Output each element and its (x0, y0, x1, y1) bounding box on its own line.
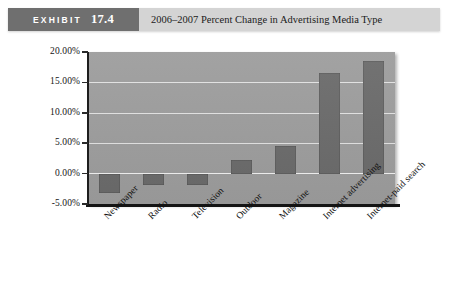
bar (363, 61, 384, 174)
y-tick-mark (82, 112, 88, 114)
y-tick-mark (82, 82, 88, 84)
y-tick-label: 0.00% (6, 168, 80, 178)
exhibit-header: EXHIBIT 17.4 2006–2007 Percent Change in… (8, 8, 440, 31)
gridline (88, 113, 395, 114)
y-axis-spine (87, 52, 89, 205)
y-tick-mark (82, 142, 88, 144)
x-axis-spine (86, 204, 400, 207)
gridline (88, 82, 395, 83)
y-tick-mark (82, 173, 88, 175)
bar (319, 73, 340, 173)
bar (143, 174, 164, 185)
y-tick-mark (82, 203, 88, 205)
y-tick-label: 10.00% (6, 107, 80, 117)
exhibit-keyword-label: EXHIBIT (33, 15, 82, 25)
bar (99, 174, 120, 193)
exhibit-number-label: 17.4 (91, 12, 114, 27)
plot-area (88, 52, 395, 204)
gridline (88, 143, 395, 144)
y-tick-label: -5.00% (6, 198, 80, 208)
y-tick-label: 20.00% (6, 46, 80, 56)
bar (187, 174, 208, 186)
bar-chart-figure: 20.00%15.00%10.00%5.00%0.00%-5.00% Newsp… (0, 36, 470, 286)
y-tick-label: 15.00% (6, 76, 80, 86)
y-axis-tick-labels: 20.00%15.00%10.00%5.00%0.00%-5.00% (0, 36, 80, 236)
y-tick-label: 5.00% (6, 137, 80, 147)
exhibit-title: 2006–2007 Percent Change in Advertising … (139, 8, 440, 31)
bar (275, 146, 296, 173)
bar (231, 160, 252, 174)
y-tick-mark (82, 51, 88, 53)
exhibit-tag-block: EXHIBIT 17.4 (8, 8, 139, 31)
